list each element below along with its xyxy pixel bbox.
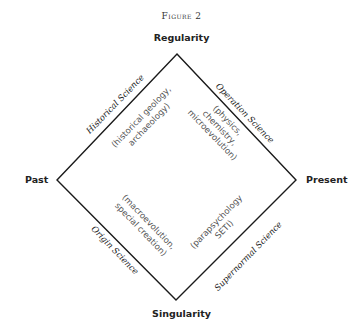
axis-label-regularity: Regularity [0,32,363,43]
diamond-shape [0,0,363,333]
axis-label-present: Present [306,174,348,185]
axis-label-past: Past [25,174,48,185]
axis-label-singularity: Singularity [0,308,363,319]
